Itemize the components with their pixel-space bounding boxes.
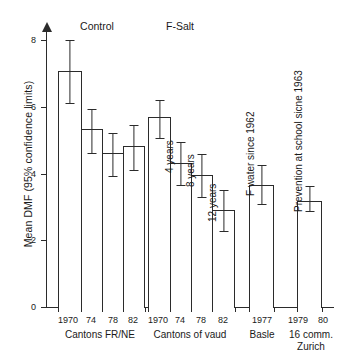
annotation-f-water-since-1962: F water since 1962 <box>246 112 256 197</box>
error-bar-control-82 <box>130 125 139 171</box>
y-tick-mark-6 <box>41 107 47 108</box>
x-tick-label-g4-80: 80 <box>312 315 334 325</box>
x-tick-mark-g2-1970 <box>148 307 149 312</box>
group-caption-cantons-fr-ne: Cantons FR/NE <box>52 329 148 341</box>
y-tick-label-0: 0 <box>0 303 36 312</box>
group-caption-cantons-of-vaud: Cantons of vaud <box>142 329 238 341</box>
group-caption-basle: Basle <box>241 329 283 341</box>
group-caption-16-comm: 16 comm. <box>282 329 340 341</box>
group-caption-zurich: Zurich <box>282 341 340 353</box>
y-axis-arrowhead <box>42 22 52 32</box>
y-tick-mark-4 <box>41 174 47 175</box>
y-tick-label-2: 2 <box>0 236 36 245</box>
x-tick-label-g2-74: 74 <box>169 315 191 325</box>
x-tick-mark-g1-1970 <box>58 307 59 312</box>
x-tick-mark-g1-end <box>145 307 146 312</box>
group-heading-f-salt: F-Salt <box>140 20 220 32</box>
x-tick-mark-g4-1979 <box>297 307 298 312</box>
error-bar-control-78 <box>109 133 118 177</box>
error-bar-fsalt-78 <box>198 154 207 198</box>
error-bar-fsalt-1970 <box>155 100 164 139</box>
x-tick-label-g3-1977: 1977 <box>245 315 279 325</box>
y-tick-label-6: 6 <box>0 103 36 112</box>
error-bar-zurich-1979-80 <box>305 186 314 212</box>
x-tick-label-g2-78: 78 <box>190 315 212 325</box>
y-axis-title: Mean DMF (95% confidence limits) <box>22 74 34 254</box>
error-bar-control-1970 <box>66 40 75 104</box>
y-tick-label-8: 8 <box>0 36 36 45</box>
x-tick-mark-g4-80 <box>322 307 323 312</box>
y-axis-line <box>46 30 47 308</box>
x-tick-mark-g3-1977 <box>249 307 250 312</box>
y-tick-mark-0 <box>41 307 47 308</box>
group-heading-control: Control <box>57 20 137 32</box>
x-tick-mark-g2-end <box>235 307 236 312</box>
bar-chart-figure: Mean DMF (95% confidence limits) 8 6 4 2… <box>0 0 341 359</box>
error-bar-basle-1977 <box>257 165 266 205</box>
x-tick-label-g1-74: 74 <box>80 315 102 325</box>
annotation-prevention-at-school: Prevention at school sicne 1963 <box>294 70 304 212</box>
x-tick-label-g1-78: 78 <box>102 315 124 325</box>
annotation-4-years: 4 years <box>165 140 175 173</box>
bar-zurich-1979-80 <box>297 201 322 308</box>
x-tick-mark-g1-82 <box>123 307 124 312</box>
bar-control-74 <box>81 129 103 308</box>
error-bar-control-74 <box>88 109 97 154</box>
y-tick-mark-8 <box>41 40 47 41</box>
y-tick-label-4: 4 <box>0 170 36 179</box>
x-tick-label-g4-1979: 1979 <box>282 315 314 325</box>
x-tick-mark-g2-74 <box>170 307 171 312</box>
x-tick-mark-g1-74 <box>81 307 82 312</box>
x-tick-mark-g2-78 <box>191 307 192 312</box>
y-tick-mark-2 <box>41 240 47 241</box>
error-bar-fsalt-82 <box>219 190 228 232</box>
annotation-12-years: 12 years <box>208 184 218 222</box>
bar-control-1970 <box>58 71 82 308</box>
annotation-8-years: 8 years <box>186 154 196 187</box>
x-tick-mark-g1-78 <box>102 307 103 312</box>
x-tick-label-g2-82: 82 <box>212 315 234 325</box>
x-tick-mark-g2-82 <box>212 307 213 312</box>
x-tick-mark-g3-end <box>274 307 275 312</box>
x-tick-label-g1-82: 82 <box>122 315 144 325</box>
